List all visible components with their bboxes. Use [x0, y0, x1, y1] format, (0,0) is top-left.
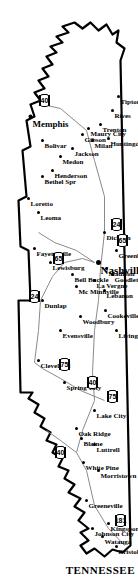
city-label-lake-city: Lake City: [96, 412, 126, 419]
route-shield-181: 181: [115, 514, 126, 527]
route-shield-number: 65: [116, 235, 129, 246]
city-dot: [33, 247, 36, 250]
route-shield-number: 181: [114, 515, 127, 526]
city-label-greenbrier: Greenbrier: [118, 252, 138, 259]
route-shield-number: 40: [38, 95, 51, 106]
route-shield-40-east: 40: [55, 446, 66, 459]
city-label-jackson: Jackson: [74, 150, 98, 157]
route-shield-75-north: 75: [107, 390, 118, 403]
city-label-livingston: Livingston: [118, 332, 138, 339]
route-shield-number: 75: [106, 391, 119, 402]
city-dot: [71, 273, 74, 276]
route-shield-number: 24: [28, 291, 41, 302]
city-dot: [111, 109, 114, 112]
city-label-cookeville: Cookeville: [107, 312, 138, 319]
route-shield-65-north: 65: [117, 234, 128, 247]
city-label-dunlap: Dunlap: [44, 302, 66, 309]
city-label-greeneville: Greeneville: [88, 502, 122, 509]
city-label-henderson: Henderson: [54, 172, 87, 179]
route-shield-number: 40: [86, 377, 99, 388]
city-dot: [115, 329, 118, 332]
city-label-white-pine: White Pine: [85, 464, 118, 471]
route-shield-65-south: 65: [53, 252, 64, 265]
city-dot: [27, 197, 30, 200]
city-label-bolivar: Bolivar: [44, 142, 66, 149]
city-label-medon: Medon: [62, 158, 83, 165]
city-label-morristown: Morristown: [100, 472, 136, 479]
map-rotation-layer: Bristol Watauga Kingsport Johnson City G…: [0, 0, 138, 579]
city-label-bristol: Bristol: [118, 548, 138, 555]
city-label-evensville: Evensville: [62, 332, 92, 339]
city-dot: [93, 409, 96, 412]
city-label-leoma: Leoma: [40, 214, 61, 221]
city-label-rives: Rives: [114, 112, 130, 119]
city-dot: [75, 427, 78, 430]
route-shield-number: 75: [58, 359, 71, 370]
city-label-blaine: Blaine: [83, 440, 102, 447]
city-dot: [51, 169, 54, 172]
route-shield-40-central: 40: [87, 376, 98, 389]
city-dot: [37, 359, 40, 362]
city-dot: [103, 231, 106, 234]
city-dot: [59, 155, 62, 158]
city-dot: [115, 249, 118, 252]
city-label-nashville: Nashville: [100, 266, 138, 273]
route-shield-number: 24: [110, 219, 123, 230]
route-shield-24-southeast: 24: [29, 290, 40, 303]
city-dot-major: [28, 114, 32, 118]
city-label-milan: Milan: [94, 142, 112, 149]
city-dot: [37, 211, 40, 214]
city-dot: [82, 461, 85, 464]
city-label-tiptonville: Tiptonville: [120, 98, 138, 105]
city-label-johnson-city: Johnson City: [94, 530, 133, 537]
city-label-watauga: Watauga: [104, 538, 131, 545]
city-dot: [79, 315, 82, 318]
city-dot: [87, 127, 90, 130]
city-label-trenton: Trenton: [102, 126, 126, 133]
city-label-loretto: Loretto: [30, 200, 52, 207]
city-dot: [59, 329, 62, 332]
city-label-oak-ridge: Oak Ridge: [78, 430, 110, 437]
city-dot: [71, 147, 74, 150]
city-label-huntingdon: Huntingdon: [110, 140, 138, 147]
city-dot: [85, 499, 88, 502]
city-label-memphis: Memphis: [32, 120, 68, 127]
city-dot: [99, 123, 102, 126]
city-dot: [117, 95, 120, 98]
city-dot: [91, 527, 94, 530]
city-dot: [81, 133, 84, 136]
city-dot: [63, 381, 66, 384]
city-dot: [107, 522, 110, 525]
city-dot: [75, 285, 78, 288]
city-dot: [41, 175, 44, 178]
city-dot: [41, 139, 44, 142]
route-shield-number: 65: [52, 253, 65, 264]
tennessee-state-map: Bristol Watauga Kingsport Johnson City G…: [0, 0, 138, 579]
city-dot: [104, 309, 107, 312]
route-shield-40-west: 40: [39, 94, 50, 107]
route-shield-number: 40: [54, 447, 67, 458]
city-label-lewisburg: Lewisburg: [52, 264, 84, 271]
route-shield-75-south: 75: [59, 358, 70, 371]
route-shield-24-northwest: 24: [111, 218, 122, 231]
state-name-label: TENNESSEE: [66, 564, 135, 576]
